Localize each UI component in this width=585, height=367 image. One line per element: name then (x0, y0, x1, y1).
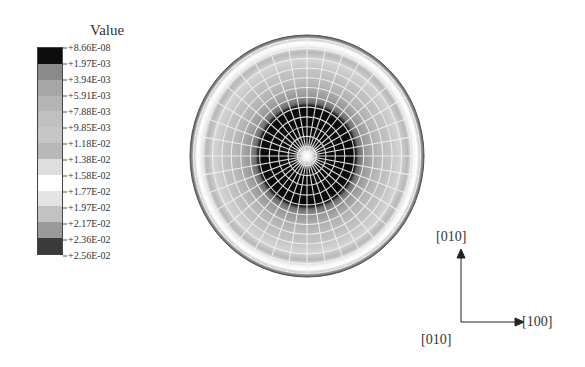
axis-label-origin: [010] (421, 332, 451, 348)
axis-indicator (457, 249, 524, 326)
axis-label-right: [100] (522, 314, 552, 330)
arrow-up-icon (457, 249, 465, 258)
contour-plot (0, 0, 585, 367)
center-point (293, 142, 321, 170)
axis-label-up: [010] (436, 229, 466, 245)
disk (190, 35, 424, 277)
